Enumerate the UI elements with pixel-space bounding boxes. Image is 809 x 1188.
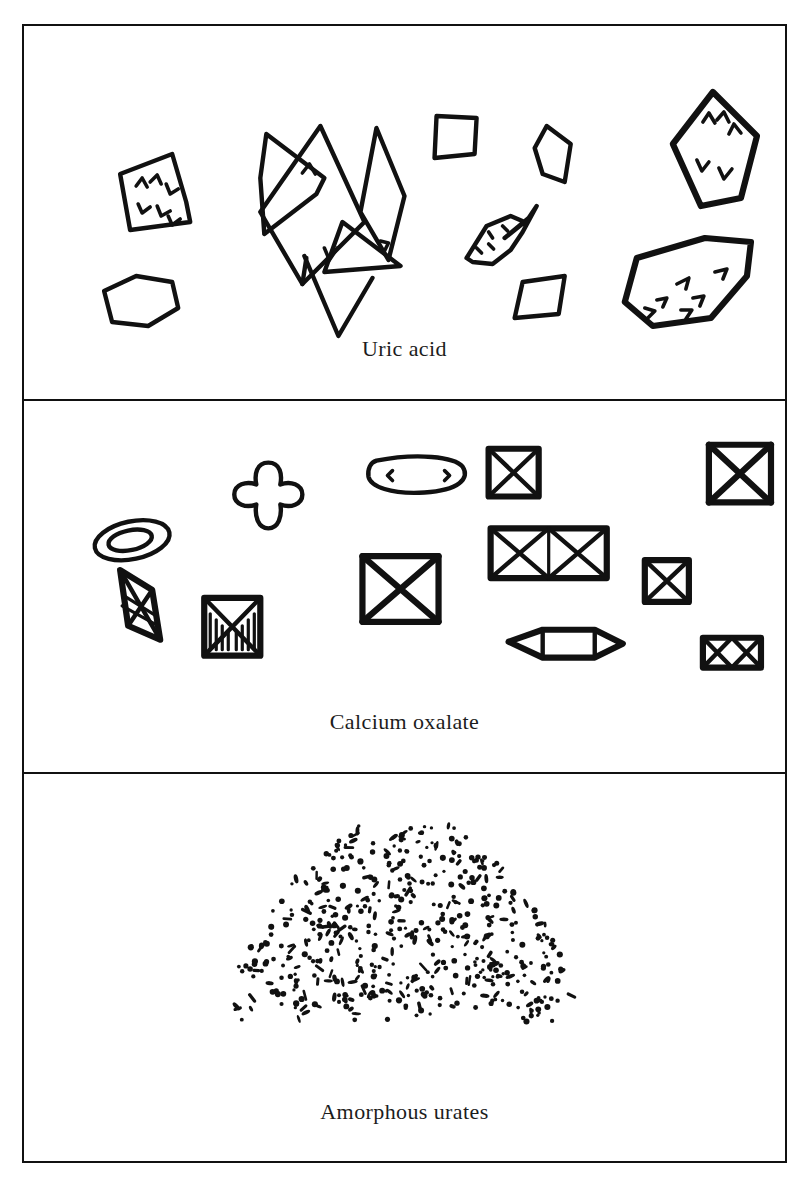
- oxalate-envelope-striated: [204, 598, 260, 656]
- oxalate-dumbbell-cross: [234, 463, 302, 529]
- uric-narrow-diamond: [535, 126, 571, 182]
- uric-wedge-d: [324, 222, 400, 272]
- uric-spindle-outline: [467, 206, 537, 264]
- uric-spindle-ticks: [477, 226, 508, 253]
- uric-wedge-e-edge: [302, 258, 306, 284]
- uric-spindle-rosette: [467, 206, 537, 264]
- figure-frame: Uric acid: [22, 24, 787, 1163]
- oxalate-envelope-small-top: [489, 449, 539, 497]
- oxalate-envelope-large-right: [709, 445, 771, 503]
- oxalate-octahedral-bipyramid: [120, 570, 160, 640]
- uric-rosette-tick-top: [302, 164, 315, 174]
- panel-uric-acid: Uric acid: [24, 26, 785, 399]
- uric-wedge-c: [360, 128, 404, 260]
- uric-small-rhomboid: [515, 276, 565, 318]
- uric-small-quadrilateral: [435, 116, 477, 158]
- uric-rosette-tick-mid: [324, 248, 337, 260]
- oxalate-hexagonal-prism: [509, 630, 623, 658]
- oxalate-envelope-medium-right: [645, 560, 689, 602]
- panel-calcium-oxalate: Calcium oxalate: [24, 399, 785, 772]
- uric-hexagonal-plate: [104, 276, 178, 326]
- uric-rhomboid-ticks: [136, 175, 180, 225]
- uric-large-plate-ticks: [645, 269, 727, 319]
- uric-large-diamond: [673, 92, 757, 206]
- uric-wedge-a: [260, 134, 324, 234]
- panel-caption-amorphous-urates: Amorphous urates: [24, 1099, 785, 1125]
- uric-large-irregular-plate: [625, 238, 751, 326]
- oxalate-rounded-rod: [368, 456, 465, 492]
- uric-wedge-b: [260, 126, 364, 284]
- uric-rosette-cluster: [260, 126, 404, 336]
- uric-rhomboid-plate: [120, 154, 190, 230]
- panel-caption-calcium-oxalate: Calcium oxalate: [24, 709, 785, 735]
- amorphous-granule-cluster: [231, 822, 574, 1025]
- oxalate-concentric-oval: [91, 514, 173, 567]
- panel-caption-uric-acid: Uric acid: [24, 336, 785, 362]
- oxalate-striation-lines: [210, 614, 254, 650]
- uric-large-diamond-ticks: [697, 112, 741, 179]
- figure-root: Urine sediment crystals: [0, 0, 809, 1188]
- uric-rosette-tick-right: [380, 241, 388, 253]
- oxalate-twin-envelope: [491, 528, 607, 578]
- uric-wedge-e: [304, 256, 372, 336]
- oxalate-envelope-center-large: [362, 556, 438, 622]
- panel-amorphous-urates: Amorphous urates: [24, 772, 785, 1160]
- oxalate-twin-envelope-small: [703, 638, 761, 668]
